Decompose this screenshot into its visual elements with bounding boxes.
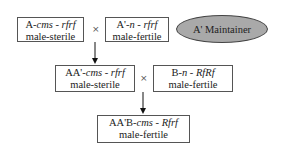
phenotype-label: male-fertile <box>98 129 189 141</box>
f1-aa-prime-cms-box: AA'-cms - rfrf male-sterile <box>55 65 135 92</box>
hybrid-aa-prime-b-box: AA'B-cms - Rfrf male-fertile <box>97 115 190 143</box>
line-prefix: AA'B- <box>109 117 137 128</box>
separator: - <box>153 117 162 128</box>
restorer-genotype: rfrf <box>143 19 157 30</box>
genotype-line: B-n - RfRf <box>154 67 232 79</box>
line-prefix: A- <box>25 19 36 30</box>
restorer-genotype: Rfrf <box>162 117 178 128</box>
separator: - <box>187 67 196 78</box>
restorer-genotype: RfRf <box>196 67 215 78</box>
cross-symbol: × <box>92 24 100 34</box>
arrow-row2-to-row3 <box>140 92 146 114</box>
phenotype-label: male-fertile <box>154 79 232 91</box>
arrowhead <box>92 58 98 64</box>
cytoplasm-type: cms <box>86 67 102 78</box>
separator: - <box>102 67 111 78</box>
line-prefix: A'- <box>117 19 130 30</box>
separator: - <box>53 19 62 30</box>
arrowhead <box>140 108 146 114</box>
genotype-line: AA'-cms - rfrf <box>56 67 134 79</box>
parent-a-prime-n-box: A'-n - rfrf male-fertile <box>105 17 169 42</box>
line-prefix: AA'- <box>65 67 86 78</box>
parent-a-cms-box: A-cms - rfrf male-sterile <box>17 17 84 42</box>
line-prefix: B- <box>171 67 182 78</box>
restorer-b-n-box: B-n - RfRf male-fertile <box>153 65 233 92</box>
cross-symbol: × <box>140 73 148 83</box>
phenotype-label: male-fertile <box>106 31 168 43</box>
restorer-genotype: rfrf <box>111 67 125 78</box>
genotype-line: AA'B-cms - Rfrf <box>98 117 189 129</box>
maintainer-ellipse: A' Maintainer <box>176 15 268 43</box>
genotype-line: A-cms - rfrf <box>18 19 83 31</box>
phenotype-label: male-sterile <box>56 79 134 91</box>
restorer-genotype: rfrf <box>62 19 76 30</box>
genotype-line: A'-n - rfrf <box>106 19 168 31</box>
phenotype-label: male-sterile <box>18 31 83 43</box>
cytoplasm-type: cms <box>36 19 52 30</box>
arrow-row1-to-row2 <box>92 42 98 64</box>
cytoplasm-type: cms <box>137 117 153 128</box>
breeding-diagram: A-cms - rfrf male-sterile × A'-n - rfrf … <box>0 0 282 150</box>
maintainer-label: A' Maintainer <box>193 24 251 35</box>
